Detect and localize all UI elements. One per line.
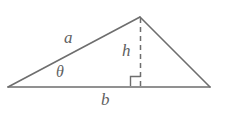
label-angle-theta: θ bbox=[56, 64, 64, 80]
right-angle-marker-icon bbox=[131, 77, 141, 87]
label-height-h: h bbox=[122, 42, 131, 59]
triangle-side-right-line bbox=[140, 17, 210, 87]
label-side-a: a bbox=[64, 29, 73, 46]
triangle-diagram-svg bbox=[0, 0, 228, 135]
geometry-figure: a θ h b bbox=[0, 0, 228, 135]
triangle-side-a-line bbox=[8, 17, 140, 87]
label-base-b: b bbox=[101, 91, 110, 108]
